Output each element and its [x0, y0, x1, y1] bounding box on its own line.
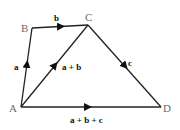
point-label-c: C: [85, 11, 92, 23]
point-label-b: B: [21, 22, 28, 34]
vector-label-b: b: [54, 13, 59, 23]
vector-label-a: a: [14, 62, 19, 72]
vector-b: [32, 25, 88, 28]
point-label-a: A: [9, 102, 17, 114]
vector-label-a-plus-b: a + b: [62, 62, 81, 72]
vector-label-a-plus-b-plus-c: a + b + c: [70, 115, 103, 125]
vector-c: [88, 25, 161, 107]
vector-diagram: A B C D a b c a + b a + b + c: [0, 0, 180, 130]
vector-label-c: c: [128, 58, 132, 68]
point-label-d: D: [163, 102, 171, 114]
